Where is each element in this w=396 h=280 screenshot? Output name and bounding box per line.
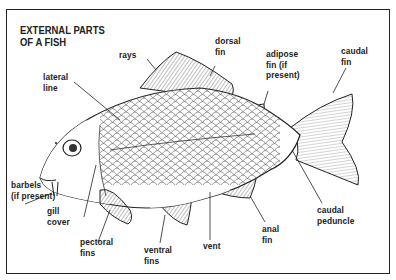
diagram-title: EXTERNAL PARTS OF A FISH bbox=[20, 24, 105, 48]
label-lateral-line: lateral line bbox=[43, 72, 68, 93]
label-vent: vent bbox=[203, 241, 221, 252]
body-shape bbox=[40, 85, 300, 210]
label-gill-cover: gill cover bbox=[47, 206, 70, 227]
label-dorsal-fin: dorsal fin bbox=[215, 36, 241, 57]
label-adipose-fin: adipose fin (if present) bbox=[266, 49, 300, 81]
label-ventral-fins: ventral fins bbox=[144, 245, 172, 266]
label-barbels: barbels (if present) bbox=[11, 180, 55, 201]
label-rays: rays bbox=[119, 50, 137, 61]
label-caudal-peduncle: caudal peduncle bbox=[317, 205, 354, 226]
label-pectoral-fins: pectoral fins bbox=[80, 237, 113, 258]
label-anal-fin: anal fin bbox=[262, 224, 279, 245]
caudal-fin-shape bbox=[290, 94, 359, 185]
label-caudal-fin: caudal fin bbox=[341, 46, 368, 67]
